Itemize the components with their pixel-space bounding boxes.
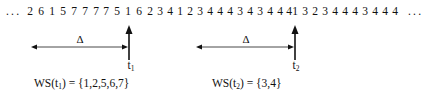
time-label-t2: t2 — [293, 59, 300, 75]
time-marker-t2-arrow-icon — [292, 25, 299, 60]
time-marker-t1-arrow-icon — [126, 25, 133, 60]
working-set-t2: WS(t2) = {3,4} — [212, 77, 282, 93]
working-set-t1: WS(t1) = {1,2,5,6,7} — [34, 77, 129, 93]
time-label-t1: t1 — [128, 59, 135, 75]
window-delta-t1-arrow-icon — [31, 45, 128, 50]
window-delta-label-t1: Δ — [76, 33, 83, 45]
window-delta-t2-arrow-icon — [196, 45, 294, 50]
window-delta-label-t2: Δ — [242, 33, 249, 45]
